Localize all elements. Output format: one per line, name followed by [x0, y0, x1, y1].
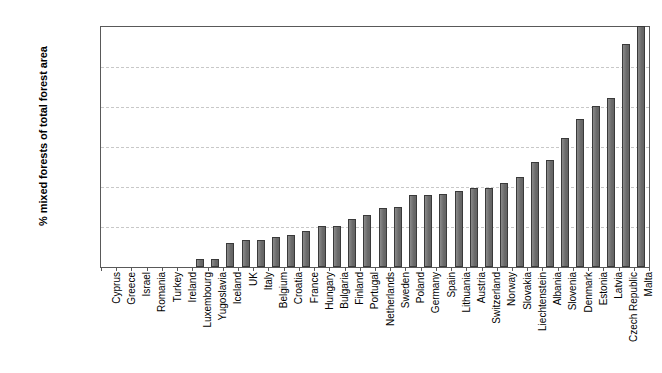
bar-slot — [405, 27, 420, 267]
x-tick-mark — [436, 267, 437, 271]
bar-slot — [527, 27, 542, 267]
bar — [257, 240, 265, 267]
bar — [607, 98, 615, 267]
bar — [348, 219, 356, 267]
x-tick-mark — [527, 267, 528, 271]
bar — [485, 188, 493, 267]
bar — [333, 226, 341, 267]
bar — [637, 26, 645, 267]
x-tick-label: Lithuania — [462, 272, 472, 313]
bar-slot — [421, 27, 436, 267]
bar — [379, 208, 387, 267]
x-tick-mark — [253, 267, 254, 271]
plot-area: 0.010.020.030.040.050.060.0 — [100, 26, 650, 268]
x-tick-label: Netherlands — [386, 272, 396, 326]
x-tick-mark — [192, 267, 193, 271]
bar-slot — [482, 27, 497, 267]
x-tick-label: Liechtenstein — [538, 272, 548, 331]
bar-slot — [253, 27, 268, 267]
bar-slot — [558, 27, 573, 267]
x-tick-mark — [284, 267, 285, 271]
x-tick-label: Belgium — [279, 272, 289, 308]
bar-slot — [497, 27, 512, 267]
bar-slot — [329, 27, 344, 267]
x-axis-labels: CyprusGreeceIsraelRomaniaTurkeyIrelandLu… — [100, 272, 648, 373]
bar-slot — [360, 27, 375, 267]
bar — [318, 226, 326, 267]
bar — [576, 119, 584, 267]
x-tick-mark — [558, 267, 559, 271]
bar-slot — [390, 27, 405, 267]
bar-slot — [451, 27, 466, 267]
bar — [196, 259, 204, 267]
bar-slot — [588, 27, 603, 267]
bar-slot — [116, 27, 131, 267]
x-tick-label: Estonia — [599, 272, 609, 305]
bar-slot — [542, 27, 557, 267]
bar-slot — [223, 27, 238, 267]
bar-slot — [573, 27, 588, 267]
bar-slot — [375, 27, 390, 267]
x-tick-mark — [162, 267, 163, 271]
x-tick-label: Czech Republic — [629, 272, 639, 342]
bar — [242, 240, 250, 267]
bar — [287, 235, 295, 267]
bar-slot — [436, 27, 451, 267]
x-tick-mark — [390, 267, 391, 271]
x-tick-mark — [512, 267, 513, 271]
x-tick-mark — [482, 267, 483, 271]
bar-slot — [345, 27, 360, 267]
bar — [546, 160, 554, 267]
x-tick-label: Finland — [355, 272, 365, 305]
x-tick-label: Slovenia — [568, 272, 578, 310]
x-tick-label: Ireland — [188, 272, 198, 303]
x-tick-mark — [542, 267, 543, 271]
x-tick-mark — [451, 267, 452, 271]
x-tick-mark — [603, 267, 604, 271]
x-tick-mark — [223, 267, 224, 271]
x-tick-mark — [299, 267, 300, 271]
bar-slot — [177, 27, 192, 267]
x-tick-mark — [375, 267, 376, 271]
bar — [272, 237, 280, 267]
x-tick-mark — [421, 267, 422, 271]
x-tick-label: Slovakia — [523, 272, 533, 310]
bar-slot — [603, 27, 618, 267]
x-tick-label: Greece — [127, 272, 137, 305]
x-tick-label: Albania — [553, 272, 563, 305]
x-tick-mark — [131, 267, 132, 271]
x-tick-label: Norway — [507, 272, 517, 306]
bar-chart: % mixed forests of total forest area 0.0… — [0, 0, 662, 373]
x-tick-label: France — [310, 272, 320, 303]
x-tick-mark — [634, 267, 635, 271]
x-tick-mark — [345, 267, 346, 271]
x-tick-label: Hungary — [325, 272, 335, 310]
x-tick-label: Sweden — [401, 272, 411, 308]
bar — [592, 106, 600, 267]
x-tick-label: Croatia — [294, 272, 304, 304]
x-tick-label: Malta — [644, 272, 654, 296]
x-tick-label: Yugoslavia — [218, 272, 228, 320]
x-tick-mark — [573, 267, 574, 271]
bar — [211, 259, 219, 267]
x-tick-mark — [329, 267, 330, 271]
x-tick-mark — [147, 267, 148, 271]
x-tick-mark — [588, 267, 589, 271]
bar — [531, 162, 539, 267]
bar — [409, 195, 417, 267]
bar-slot — [299, 27, 314, 267]
x-tick-label: Israel — [142, 272, 152, 296]
bars-layer — [101, 27, 649, 267]
x-tick-label: Austria — [477, 272, 487, 303]
bar — [455, 191, 463, 267]
x-tick-label: Latvia — [614, 272, 624, 299]
x-tick-label: Switzerland — [492, 272, 502, 324]
x-tick-label: Turkey — [173, 272, 183, 302]
bar-slot — [147, 27, 162, 267]
x-tick-label: Italy — [264, 272, 274, 290]
bar — [516, 177, 524, 267]
bar-slot — [619, 27, 634, 267]
x-tick-mark — [268, 267, 269, 271]
bar — [470, 188, 478, 267]
bar-slot — [131, 27, 146, 267]
